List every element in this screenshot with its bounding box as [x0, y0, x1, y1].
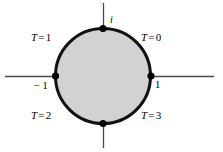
- quadrant-label-t1-value: 1: [46, 31, 52, 43]
- quadrant-label-t2-value: 2: [46, 109, 52, 121]
- axis-label-minus-one: − 1: [34, 81, 48, 92]
- quadrant-label-t0-equals: =: [147, 31, 155, 43]
- quadrant-label-t1-equals: =: [37, 31, 45, 43]
- quadrant-label-t3: T=3: [141, 110, 161, 121]
- point-one-marker: [147, 72, 154, 79]
- quadrant-label-t0: T=0: [141, 32, 161, 43]
- quadrant-label-t1: T=1: [31, 32, 51, 43]
- quadrant-label-t3-value: 3: [156, 109, 162, 121]
- quadrant-label-t0-value: 0: [156, 31, 162, 43]
- quadrant-label-t2-equals: =: [37, 109, 45, 121]
- quadrant-label-t3-equals: =: [147, 109, 155, 121]
- point-minus-i-marker: [99, 120, 106, 127]
- axis-label-one: 1: [155, 80, 160, 91]
- point-i-marker: [99, 25, 106, 32]
- quadrant-label-t2: T=2: [31, 110, 51, 121]
- point-minus-one-marker: [52, 72, 59, 79]
- axis-label-imaginary-unit: i: [110, 15, 113, 25]
- unit-circle-figure: T=1 T=0 T=2 T=3 − 1 1 i: [0, 0, 223, 152]
